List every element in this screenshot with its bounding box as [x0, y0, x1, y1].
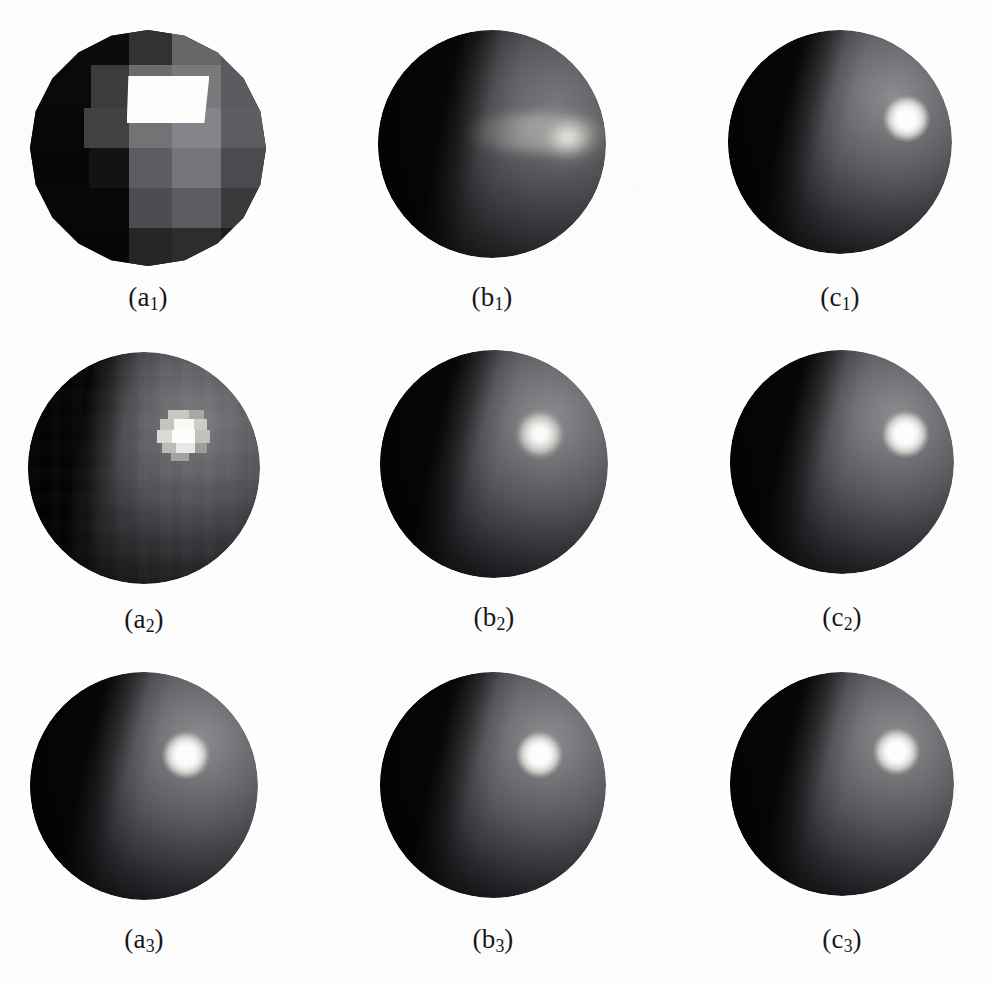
panel-a1: (a1) [30, 30, 266, 305]
caption-b3: (b3) [380, 924, 606, 957]
panel-a2: (a2) [28, 352, 260, 627]
panel-a3: (a3) [30, 672, 258, 947]
sphere-c3 [730, 672, 954, 896]
caption-a1: (a1) [30, 282, 266, 315]
sphere-a2 [28, 352, 260, 584]
caption-c3: (c3) [730, 924, 954, 957]
panel-b2: (b2) [380, 350, 608, 625]
sphere-b2 [380, 350, 608, 578]
panel-b1: (b1) [378, 30, 606, 305]
figure-canvas: (a1) (b1) [0, 0, 990, 985]
sphere-a1 [30, 30, 266, 266]
sphere-c1 [728, 30, 952, 254]
caption-b2: (b2) [380, 602, 608, 635]
sphere-grid: (a1) (b1) [0, 0, 990, 985]
panel-b3: (b3) [380, 672, 606, 947]
panel-c1: (c1) [728, 30, 952, 305]
caption-c2: (c2) [730, 602, 954, 635]
panel-c3: (c3) [730, 672, 954, 947]
sphere-a3 [30, 672, 258, 900]
sphere-c2 [730, 350, 954, 574]
polyhedron-silhouette [30, 30, 266, 266]
caption-a3: (a3) [30, 924, 258, 957]
panel-c2: (c2) [730, 350, 954, 625]
sphere-b3 [380, 672, 606, 898]
caption-a2: (a2) [28, 604, 260, 637]
caption-c1: (c1) [728, 282, 952, 315]
sphere-b1 [378, 30, 606, 258]
caption-b1: (b1) [378, 282, 606, 315]
